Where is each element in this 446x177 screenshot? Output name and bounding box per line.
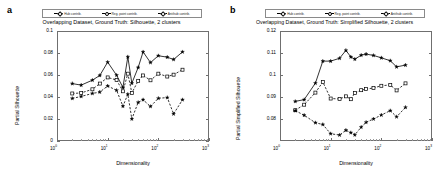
x-minor-tick bbox=[88, 139, 89, 141]
data-point-marker bbox=[172, 73, 175, 76]
data-point-marker bbox=[365, 88, 368, 91]
x-minor-tick bbox=[143, 139, 144, 141]
y-tick-mark bbox=[57, 141, 60, 142]
data-point-marker bbox=[395, 89, 398, 92]
x-minor-tick bbox=[103, 139, 104, 141]
x-tick-mark bbox=[158, 138, 159, 141]
y-tick-label: 0.08 bbox=[248, 116, 276, 121]
data-point-marker bbox=[130, 81, 134, 85]
data-point-marker bbox=[379, 56, 383, 60]
y-tick-label: 0.02 bbox=[25, 116, 53, 121]
x-minor-tick bbox=[132, 139, 133, 141]
x-minor-tick bbox=[323, 139, 324, 141]
data-point-marker bbox=[338, 97, 341, 100]
x-minor-tick bbox=[319, 139, 320, 141]
data-point-marker bbox=[98, 90, 102, 94]
data-point-marker bbox=[91, 78, 95, 82]
y-tick-mark-right bbox=[429, 97, 432, 98]
data-point-marker bbox=[115, 88, 119, 92]
x-minor-tick bbox=[150, 139, 151, 141]
x-tick-label: 100 bbox=[50, 144, 57, 151]
y-tick-mark-right bbox=[206, 119, 209, 120]
data-point-marker bbox=[106, 76, 109, 79]
x-tick-mark bbox=[280, 138, 281, 141]
x-minor-tick bbox=[430, 139, 431, 141]
y-tick-mark bbox=[57, 119, 60, 120]
data-point-marker bbox=[80, 91, 83, 94]
data-point-marker bbox=[303, 103, 306, 106]
data-point-marker bbox=[70, 82, 74, 86]
x-minor-tick bbox=[105, 139, 106, 141]
data-point-marker bbox=[349, 131, 353, 135]
data-point-marker bbox=[181, 98, 185, 102]
data-point-marker bbox=[136, 100, 140, 104]
x-minor-tick bbox=[421, 139, 422, 141]
x-minor-tick bbox=[174, 139, 175, 141]
x-minor-tick bbox=[397, 139, 398, 141]
data-point-marker bbox=[379, 113, 383, 117]
x-minor-tick bbox=[156, 139, 157, 141]
data-point-marker bbox=[314, 91, 317, 94]
x-minor-tick bbox=[81, 139, 82, 141]
data-point-marker bbox=[137, 79, 140, 82]
data-point-marker bbox=[121, 104, 125, 108]
x-minor-tick bbox=[207, 139, 208, 141]
data-point-marker bbox=[157, 72, 160, 75]
x-minor-tick bbox=[373, 139, 374, 141]
x-axis-label-b: Dimensionality bbox=[280, 160, 432, 166]
data-point-marker bbox=[136, 66, 140, 70]
y-tick-label: 0.08 bbox=[25, 50, 53, 55]
data-point-marker bbox=[321, 123, 325, 127]
data-point-marker bbox=[98, 82, 101, 85]
data-point-marker bbox=[344, 95, 347, 98]
y-tick-mark-right bbox=[206, 31, 209, 32]
x-minor-tick bbox=[355, 139, 356, 141]
x-minor-tick bbox=[328, 139, 329, 141]
x-minor-tick bbox=[346, 139, 347, 141]
y-tick-mark-right bbox=[206, 97, 209, 98]
x-minor-tick bbox=[189, 139, 190, 141]
x-tick-mark bbox=[209, 138, 210, 141]
data-point-marker bbox=[380, 84, 383, 87]
x-minor-tick bbox=[379, 139, 380, 141]
data-point-marker bbox=[71, 92, 74, 95]
series-line-antihub-contrib bbox=[295, 107, 405, 135]
data-point-marker bbox=[372, 86, 375, 89]
x-minor-tick bbox=[326, 139, 327, 141]
data-point-marker bbox=[353, 92, 356, 95]
data-point-marker bbox=[115, 79, 118, 82]
x-minor-tick bbox=[315, 139, 316, 141]
y-tick-mark-right bbox=[206, 53, 209, 54]
data-point-marker bbox=[121, 90, 124, 93]
x-minor-tick bbox=[153, 139, 154, 141]
data-point-marker bbox=[106, 60, 110, 64]
x-minor-tick bbox=[194, 139, 195, 141]
y-tick-mark-right bbox=[206, 141, 209, 142]
y-tick-mark bbox=[280, 75, 283, 76]
x-minor-tick bbox=[198, 139, 199, 141]
y-tick-mark-right bbox=[429, 75, 432, 76]
x-minor-tick bbox=[370, 139, 371, 141]
x-tick-label: 103 bbox=[425, 144, 432, 151]
x-tick-mark bbox=[331, 138, 332, 141]
data-point-marker bbox=[353, 57, 357, 61]
x-tick-label: 101 bbox=[324, 144, 331, 151]
data-point-marker bbox=[329, 132, 333, 136]
x-minor-tick bbox=[201, 139, 202, 141]
x-minor-tick bbox=[311, 139, 312, 141]
x-minor-tick bbox=[183, 139, 184, 141]
x-tick-label: 100 bbox=[273, 144, 280, 151]
data-point-marker bbox=[165, 55, 169, 59]
series-layer-b bbox=[223, 0, 446, 177]
x-axis-label-a: Dimensionality bbox=[57, 160, 209, 166]
x-tick-label: 101 bbox=[101, 144, 108, 151]
x-tick-mark bbox=[381, 138, 382, 141]
y-tick-mark-right bbox=[429, 31, 432, 32]
data-point-marker bbox=[314, 81, 318, 85]
data-point-marker bbox=[166, 75, 169, 78]
panel-a: a Hub contrib. Reg. point contrib. Antih… bbox=[0, 0, 223, 177]
data-point-marker bbox=[130, 91, 133, 94]
data-point-marker bbox=[329, 97, 332, 100]
data-point-marker bbox=[91, 88, 94, 91]
data-point-marker bbox=[404, 82, 407, 85]
